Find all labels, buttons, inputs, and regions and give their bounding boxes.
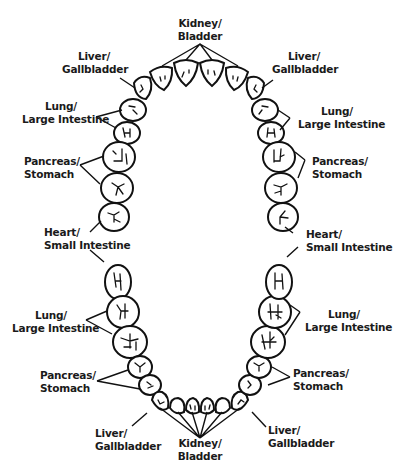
label-line-1: Pancreas/ (293, 367, 349, 380)
label-upper-right-heart-small-intestine: Heart/ Small Intestine (306, 228, 392, 254)
tooth-upper-central-incisor-left (174, 60, 198, 86)
label-line-1: Liver/ (268, 424, 334, 437)
tooth-lower-incisor-left-1 (186, 398, 199, 414)
label-upper-kidney-bladder: Kidney/ Bladder (172, 17, 228, 43)
label-line-2: Gallbladder (95, 440, 161, 453)
label-line-2: Gallbladder (62, 63, 126, 76)
label-line-2: Small Intestine (306, 241, 392, 254)
label-line-2: Stomach (293, 380, 349, 393)
tooth-upper-molar-2-left (101, 173, 133, 203)
label-line-1: Heart/ (306, 228, 392, 241)
label-line-1: Lung/ (22, 100, 100, 113)
label-line-2: Large Intestine (12, 322, 90, 335)
label-line-2: Stomach (40, 382, 96, 395)
tooth-upper-canine-right (247, 77, 264, 99)
label-line-2: Small Intestine (44, 239, 130, 252)
label-line-2: Gallbladder (272, 63, 336, 76)
label-line-1: Heart/ (44, 226, 130, 239)
upper-arch (99, 60, 298, 231)
label-line-2: Large Intestine (298, 118, 376, 131)
tooth-upper-premolar-1-right (252, 99, 278, 121)
label-upper-left-pancreas-stomach: Pancreas/ Stomach (24, 155, 80, 181)
label-line-1: Kidney/ (172, 437, 228, 450)
label-lower-right-lung-large-intestine: Lung/ Large Intestine (305, 308, 383, 334)
label-upper-left-lung-large-intestine: Lung/ Large Intestine (22, 100, 100, 126)
tooth-upper-lateral-incisor-left (150, 67, 172, 90)
label-upper-left-heart-small-intestine: Heart/ Small Intestine (44, 226, 130, 252)
label-lower-left-lung-large-intestine: Lung/ Large Intestine (12, 309, 90, 335)
tooth-upper-molar-1-left (103, 142, 135, 172)
label-lower-left-pancreas-stomach: Pancreas/ Stomach (40, 369, 96, 395)
label-line-2: Large Intestine (22, 113, 100, 126)
label-upper-left-liver-gallbladder: Liver/ Gallbladder (62, 50, 126, 76)
label-line-1: Pancreas/ (312, 155, 368, 168)
label-upper-right-pancreas-stomach: Pancreas/ Stomach (312, 155, 368, 181)
label-lower-right-liver-gallbladder: Liver/ Gallbladder (268, 424, 334, 450)
label-line-2: Bladder (172, 450, 228, 463)
label-lower-kidney-bladder: Kidney/ Bladder (172, 437, 228, 463)
tooth-lower-canine-left (152, 392, 168, 410)
label-line-1: Liver/ (272, 50, 336, 63)
label-line-1: Kidney/ (172, 17, 228, 30)
label-line-2: Stomach (24, 168, 80, 181)
label-line-1: Lung/ (12, 309, 90, 322)
label-line-1: Lung/ (298, 105, 376, 118)
label-line-1: Pancreas/ (40, 369, 96, 382)
label-upper-right-lung-large-intestine: Lung/ Large Intestine (298, 105, 376, 131)
tooth-lower-incisor-right-1 (201, 398, 214, 414)
tooth-lower-molar-3-left (105, 265, 131, 299)
tooth-lower-molar-2-left (107, 296, 139, 328)
label-line-2: Gallbladder (268, 437, 334, 450)
label-lower-right-pancreas-stomach: Pancreas/ Stomach (293, 367, 349, 393)
label-upper-right-liver-gallbladder: Liver/ Gallbladder (272, 50, 336, 76)
tooth-lower-incisor-left-2 (170, 398, 184, 413)
label-line-2: Large Intestine (305, 321, 383, 334)
tooth-upper-molar-1-right (263, 142, 295, 172)
tooth-upper-lateral-incisor-right (226, 67, 248, 90)
label-line-1: Liver/ (95, 427, 161, 440)
label-line-2: Bladder (172, 30, 228, 43)
lower-arch (105, 265, 292, 414)
tooth-lower-incisor-right-2 (216, 398, 230, 413)
label-lower-left-liver-gallbladder: Liver/ Gallbladder (95, 427, 161, 453)
label-line-2: Stomach (312, 168, 368, 181)
tooth-lower-molar-3-right (266, 265, 292, 299)
label-line-1: Pancreas/ (24, 155, 80, 168)
tooth-upper-central-incisor-right (200, 60, 224, 86)
label-line-1: Liver/ (62, 50, 126, 63)
label-line-1: Lung/ (305, 308, 383, 321)
